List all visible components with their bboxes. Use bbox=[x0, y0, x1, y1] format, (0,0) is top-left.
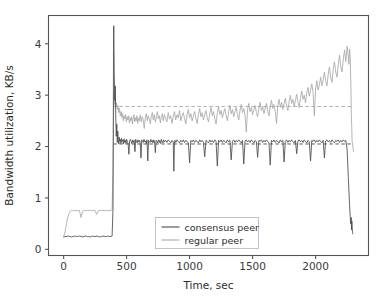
y-tick-label: 2 bbox=[35, 140, 42, 152]
y-tick-label: 0 bbox=[35, 243, 42, 255]
legend-label-0[interactable]: consensus peer bbox=[185, 222, 260, 233]
x-tick-label: 0 bbox=[60, 260, 67, 272]
x-tick-label: 500 bbox=[117, 260, 137, 272]
y-tick-label: 4 bbox=[35, 38, 42, 50]
x-axis-title: Time, sec bbox=[182, 279, 233, 291]
bandwidth-utilization-line-chart: 0500100015002000 01234 Time, sec Bandwid… bbox=[0, 0, 388, 299]
x-tick-label: 2000 bbox=[302, 260, 329, 272]
y-tick-label: 1 bbox=[35, 192, 42, 204]
chart-legend[interactable]: consensus peerregular peer bbox=[156, 218, 260, 249]
y-tick-label: 3 bbox=[35, 89, 42, 101]
figure-background bbox=[0, 0, 388, 299]
x-tick-label: 1000 bbox=[176, 260, 203, 272]
chart-figure: 0500100015002000 01234 Time, sec Bandwid… bbox=[0, 0, 388, 299]
y-axis-title: Bandwidth utilization, KB/s bbox=[3, 65, 15, 206]
legend-label-1[interactable]: regular peer bbox=[185, 235, 244, 246]
x-tick-label: 1500 bbox=[239, 260, 266, 272]
